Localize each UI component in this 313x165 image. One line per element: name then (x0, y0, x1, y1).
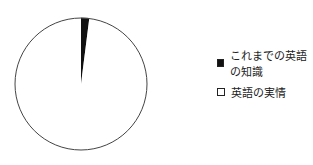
pie-chart (0, 0, 170, 165)
legend-swatch-white (217, 88, 225, 96)
legend-swatch-black (217, 59, 224, 67)
pie-slice (15, 18, 147, 150)
legend-item-reality: 英語の実情 (217, 85, 313, 99)
legend-item-knowledge: これまでの英語の知識 (217, 56, 313, 70)
legend-label: これまでの英語の知識 (230, 47, 313, 79)
legend: これまでの英語の知識 英語の実情 (217, 56, 313, 114)
legend-label: 英語の実情 (231, 84, 286, 100)
